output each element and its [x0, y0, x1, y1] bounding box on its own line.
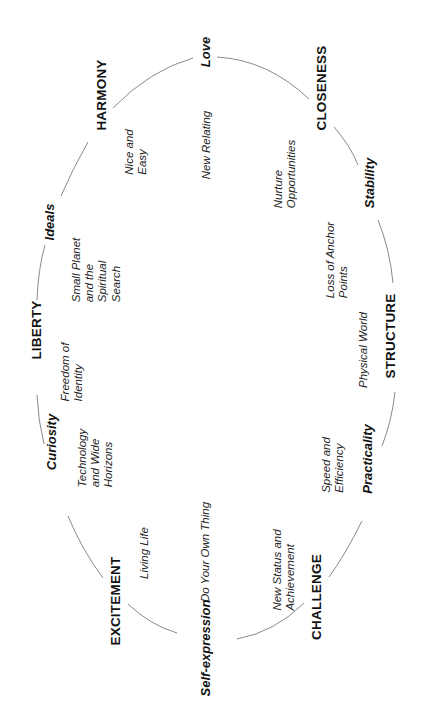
arc-harmony-love — [113, 58, 193, 108]
note-loss-of-anchor-points: Loss of Anchor Points — [324, 222, 350, 298]
note-small-planet-spiritual-search: Small Planet and the Spiritual Search — [70, 238, 123, 303]
node-stability: Stability — [363, 158, 378, 209]
node-ideals: Ideals — [43, 204, 58, 241]
node-challenge: CHALLENGE — [309, 554, 325, 640]
note-new-relating: New Relating — [200, 111, 213, 179]
node-closeness: CLOSENESS — [314, 45, 330, 130]
node-harmony: HARMONY — [94, 59, 110, 130]
arc-liberty-ideals — [37, 245, 45, 300]
node-liberty: LIBERTY — [29, 300, 45, 359]
cycle-diagram: Love CLOSENESS Stability STRUCTURE Pract… — [0, 0, 429, 727]
node-structure: STRUCTURE — [383, 293, 399, 378]
node-love: Love — [199, 37, 214, 67]
note-technology-and-wide-horizons: Technology and Wide Horizons — [76, 429, 116, 487]
note-physical-world: Physical World — [357, 312, 370, 388]
arc-ideals-harmony — [61, 142, 88, 196]
arc-closeness-stability — [334, 127, 358, 165]
node-self-expression: Self-expression — [199, 600, 214, 697]
note-do-your-own-thing: Do Your Own Thing — [199, 502, 212, 602]
node-curiosity: Curiosity — [45, 414, 60, 470]
arc-love-closeness — [217, 57, 309, 99]
note-new-status-and-achievement: New Status and Achievement — [271, 529, 297, 610]
note-nice-and-easy: Nice and Easy — [123, 129, 149, 174]
node-practicality: Practicality — [361, 424, 376, 493]
note-speed-and-efficiency: Speed and Efficiency — [320, 437, 346, 493]
arc-structure-practicality — [382, 392, 395, 446]
arc-excitement-curiosity — [68, 516, 103, 578]
node-excitement: EXCITEMENT — [108, 556, 124, 645]
arc-practicality-challenge — [329, 521, 362, 577]
note-freedom-of-identity: Freedom of Identity — [59, 343, 85, 402]
arc-selfexpression-excitement — [128, 604, 177, 633]
note-living-life: Living Life — [138, 527, 151, 579]
arc-stability-structure — [378, 220, 393, 283]
note-nurture-opportunities: Nurture Opportunities — [272, 140, 298, 208]
